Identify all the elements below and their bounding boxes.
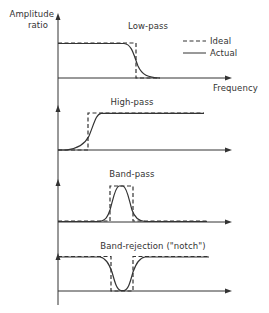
ideal-curve [58,257,209,292]
panel-high-pass [58,113,232,153]
panel-title-band-rejection: Band-rejection ("notch") [98,242,208,251]
y-axis-label: Amplitude ratio [8,10,54,29]
legend-ideal-label: Ideal [210,37,231,46]
y-axis-arrow-icon [56,13,61,20]
panel-title-low-pass: Low-pass [118,22,178,31]
panel-title-high-pass: High-pass [102,98,162,107]
actual-curve [58,44,160,79]
x-axis-arrow-icon [225,220,232,225]
legend [183,41,206,53]
y-axis-arrow-icon [56,105,61,112]
x-axis-arrow-icon [225,76,232,81]
actual-curve [58,113,204,150]
y-axis-label-line2: ratio [8,21,48,30]
ideal-curve [58,113,204,150]
panel-low-pass [58,43,232,81]
y-axis-arrow-icon [56,179,61,186]
x-axis-arrow-icon [225,148,232,153]
legend-actual-label: Actual [210,49,237,58]
filter-diagram [0,0,269,313]
panel-band-rejection [58,257,232,294]
x-axis-label: Frequency [213,84,258,93]
x-axis-arrow-icon [225,289,232,294]
y-axis-label-line1: Amplitude [8,10,54,19]
ideal-curve [58,186,207,221]
panel-band-pass [58,186,232,225]
panel-title-band-pass: Band-pass [102,170,162,179]
ideal-curve [58,43,160,78]
